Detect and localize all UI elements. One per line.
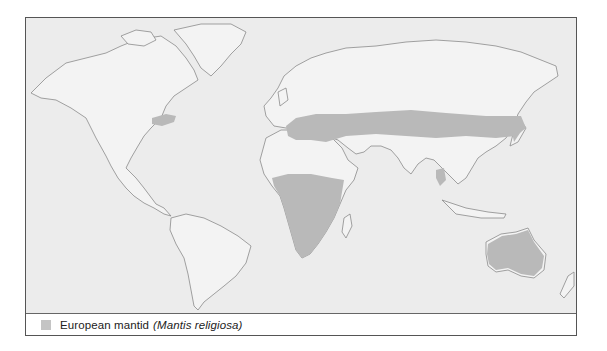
legend-swatch bbox=[41, 320, 51, 330]
indonesia bbox=[442, 200, 506, 218]
new-zealand bbox=[560, 272, 574, 298]
range-africa bbox=[272, 174, 344, 258]
legend-label: European mantid bbox=[60, 319, 149, 331]
south-america bbox=[170, 214, 251, 310]
world-map bbox=[26, 18, 576, 314]
world-map-svg bbox=[26, 18, 576, 313]
madagascar bbox=[342, 214, 352, 238]
legend-scientific-name: (Mantis religiosa) bbox=[153, 319, 242, 331]
map-figure: European mantid (Mantis religiosa) bbox=[25, 17, 577, 336]
north-america bbox=[31, 36, 198, 216]
map-legend: European mantid (Mantis religiosa) bbox=[26, 314, 576, 335]
